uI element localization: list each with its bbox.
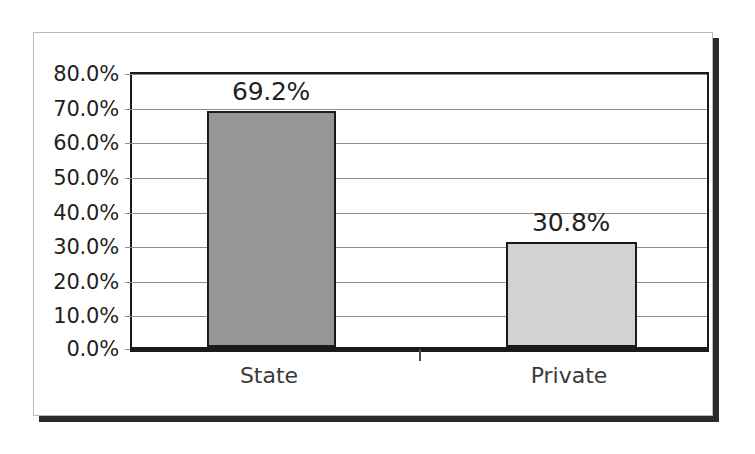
x-axis-label-private: Private [531,363,608,388]
y-tick-30 [125,247,132,248]
x-axis-category-divider-tick [419,349,421,361]
y-tick-60 [125,143,132,144]
y-axis-label-10: 10.0% [53,304,119,328]
bar-private[interactable] [506,242,637,347]
y-tick-50 [125,178,132,179]
chart-frame: 80.0% 70.0% 60.0% 50.0% 40.0% 30.0% 20.0… [33,32,713,416]
x-axis-label-state: State [240,363,298,388]
y-axis-label-40: 40.0% [53,201,119,225]
y-axis-label-20: 20.0% [53,270,119,294]
gridline-80 [132,74,707,75]
y-axis-label-30: 30.0% [53,235,119,259]
plot-area: 80.0% 70.0% 60.0% 50.0% 40.0% 30.0% 20.0… [130,72,709,349]
gridline-70 [132,109,707,110]
y-tick-10 [125,316,132,317]
y-axis-label-50: 50.0% [53,166,119,190]
value-label-state: 69.2% [232,77,310,106]
value-label-private: 30.8% [532,208,610,237]
y-axis-label-80: 80.0% [53,62,119,86]
y-axis-label-70: 70.0% [53,97,119,121]
y-tick-40 [125,213,132,214]
y-tick-20 [125,282,132,283]
y-tick-70 [125,109,132,110]
y-tick-80 [125,74,132,75]
bar-state[interactable] [207,111,336,347]
y-axis-label-60: 60.0% [53,131,119,155]
y-axis-label-0: 0.0% [66,337,119,361]
